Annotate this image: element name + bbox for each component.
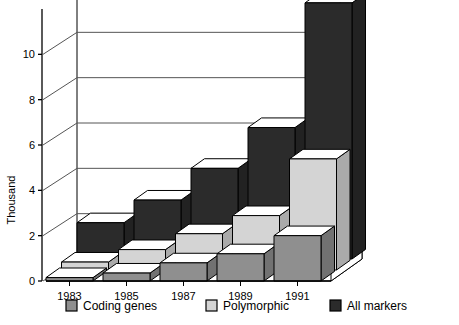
y-tick-label: 2 <box>29 230 35 242</box>
bar-chart-3d: 0246810Thousand19831985198719891991Codin… <box>0 0 459 325</box>
legend-swatch-all-markers <box>330 300 341 311</box>
depth-frame-line <box>43 214 77 236</box>
legend-swatch-coding-genes <box>66 300 77 311</box>
y-tick-label: 8 <box>29 94 35 106</box>
y-tick-label: 6 <box>29 139 35 151</box>
legend-swatch-polymorphic <box>206 300 217 311</box>
y-tick-label: 4 <box>29 184 35 196</box>
y-tick-label: 10 <box>23 48 35 60</box>
y-tick-label: 0 <box>29 275 35 287</box>
bar-front-coding-genes-1989 <box>217 254 264 281</box>
legend-label-all-markers: All markers <box>347 299 407 313</box>
bar-front-coding-genes-1991 <box>274 236 321 281</box>
legend-label-coding-genes: Coding genes <box>83 299 157 313</box>
bar-front-coding-genes-1987 <box>160 263 207 281</box>
bar-side-all-markers-1991 <box>352 0 366 259</box>
bar-side-polymorphic-1991 <box>337 149 351 270</box>
depth-frame-line <box>43 78 77 100</box>
depth-frame-line <box>43 123 77 145</box>
x-tick-label-1987: 1987 <box>171 290 195 302</box>
depth-frame-line <box>43 32 77 54</box>
y-axis-title: Thousand <box>5 176 17 225</box>
bar-front-coding-genes-1985 <box>103 273 150 281</box>
chart-root: 0246810Thousand19831985198719891991Codin… <box>0 0 459 325</box>
legend-label-polymorphic: Polymorphic <box>223 299 289 313</box>
depth-frame-line <box>43 168 77 190</box>
